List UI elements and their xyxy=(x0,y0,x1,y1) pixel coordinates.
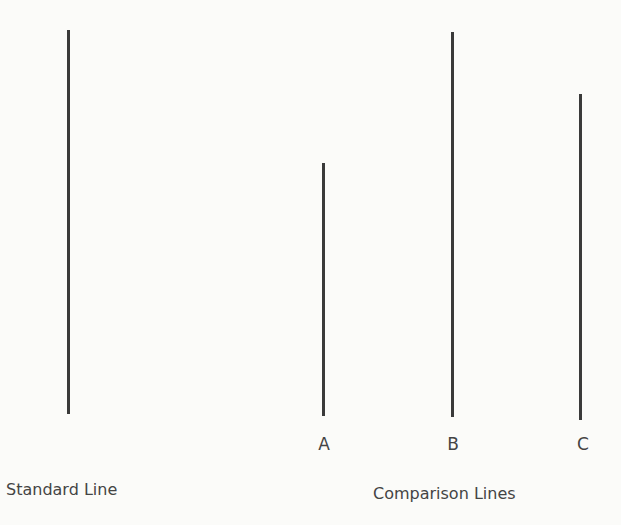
label-b: B xyxy=(447,434,459,454)
label-a: A xyxy=(318,434,330,454)
standard-line-caption: Standard Line xyxy=(6,480,117,499)
label-c: C xyxy=(577,434,589,454)
comparison-lines-caption: Comparison Lines xyxy=(373,484,516,503)
comparison-line-a xyxy=(322,163,325,416)
standard-line xyxy=(67,30,70,414)
comparison-line-b xyxy=(451,32,454,417)
comparison-line-c xyxy=(579,94,582,420)
